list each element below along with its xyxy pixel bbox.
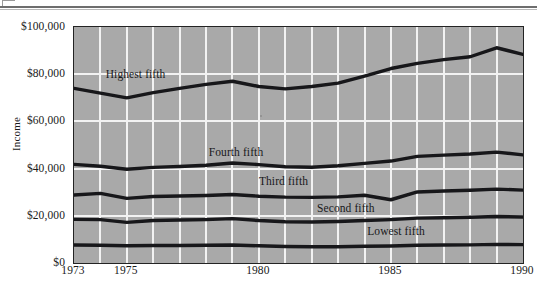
series-line-lowest-fifth [74, 244, 523, 246]
series-lines-layer [74, 27, 523, 263]
y-axis-tick-label: $80,000 [27, 67, 65, 79]
y-axis-tick-label: $40,000 [27, 162, 65, 174]
y-axis-tick-label: $60,000 [27, 114, 65, 126]
series-line-third-fifth [74, 189, 523, 200]
y-axis-tick-label: $100,000 [21, 20, 65, 32]
series-label-second-fifth: Second fifth [317, 202, 375, 214]
x-axis-tick-labels: 19731975198019851990 [0, 264, 537, 284]
x-axis-tick-label: 1980 [246, 264, 269, 276]
series-label-third-fifth: Third fifth [259, 175, 308, 187]
x-axis-tick-label: 1985 [378, 264, 401, 276]
y-axis-tick-label: $20,000 [27, 209, 65, 221]
x-axis-tick-label: 1973 [61, 264, 84, 276]
series-label-lowest-fifth: Lowest fifth [367, 225, 425, 237]
print-speck [260, 115, 262, 117]
figure-container: Income $0$20,000$40,000$60,000$80,000$10… [0, 0, 537, 284]
plot-area: Highest fifthFourth fifthThird fifthSeco… [73, 26, 524, 264]
series-line-second-fifth [74, 217, 523, 223]
series-line-fourth-fifth [74, 152, 523, 169]
plot-inner: Highest fifthFourth fifthThird fifthSeco… [74, 27, 523, 263]
top-horizontal-rule-thin [0, 9, 537, 10]
x-axis-tick-label: 1975 [114, 264, 137, 276]
y-axis-tick-labels: $0$20,000$40,000$60,000$80,000$100,000 [0, 0, 70, 284]
top-horizontal-rule [0, 6, 537, 8]
x-axis-tick-label: 1990 [510, 264, 533, 276]
series-label-fourth-fifth: Fourth fifth [209, 146, 264, 158]
series-label-highest-fifth: Highest fifth [106, 68, 166, 80]
